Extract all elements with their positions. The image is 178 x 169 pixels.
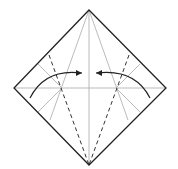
origami-diagram (0, 0, 178, 169)
right-fold-arrow-icon (96, 72, 150, 98)
